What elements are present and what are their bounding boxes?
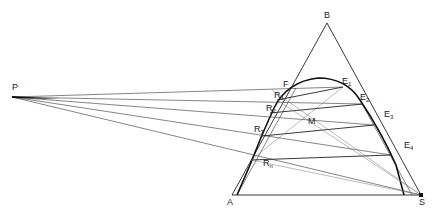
difference-point-rays (12, 87, 421, 195)
label-r3: R3 (254, 124, 265, 135)
label-e4: E4 (404, 140, 414, 151)
label-m: M (308, 116, 316, 126)
label-a: A (227, 197, 233, 207)
label-r1: R1 (274, 90, 285, 101)
label-f: F (283, 79, 289, 89)
label-e3: E3 (384, 109, 394, 120)
label-e2: E2 (360, 92, 370, 103)
label-b: B (324, 10, 330, 20)
label-p: P (12, 82, 18, 92)
binodal-curve (237, 78, 404, 195)
diagram-canvas: B A S P F M R1 R2 R3 Rn E1 E2 E3 E4 (0, 0, 438, 216)
ternary-diagram: B A S P F M R1 R2 R3 Rn E1 E2 E3 E4 (0, 0, 438, 216)
label-e1: E1 (342, 76, 352, 87)
label-s: S (419, 197, 425, 207)
triangle-outline (232, 23, 421, 195)
